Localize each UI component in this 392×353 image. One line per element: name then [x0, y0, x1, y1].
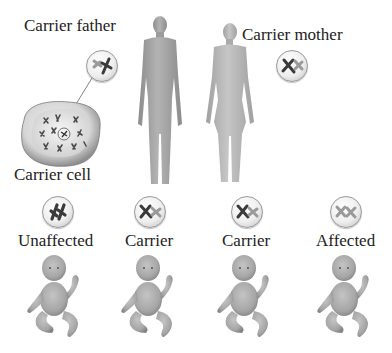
carrier-label-1: Carrier	[125, 232, 173, 249]
baby-carrier-figure-1	[118, 253, 182, 339]
affected-label: Affected	[316, 232, 375, 249]
carrier-cell-label: Carrier cell	[14, 166, 91, 183]
baby-unaffected-figure	[24, 253, 88, 339]
baby-carrier-figure-2	[214, 253, 278, 339]
unaffected-chromosome-icon	[42, 196, 74, 228]
unaffected-label: Unaffected	[18, 232, 93, 249]
affected-chromosome-icon	[330, 196, 362, 228]
baby-affected-figure	[314, 253, 378, 339]
carrier-chromosome-icon-1	[134, 196, 166, 228]
carrier-chromosome-icon-2	[231, 196, 263, 228]
mother-chromosome-icon	[276, 50, 308, 82]
father-figure	[134, 14, 186, 187]
mother-figure	[200, 22, 262, 186]
carrier-cell-illustration	[18, 98, 104, 170]
carrier-label-2: Carrier	[222, 232, 270, 249]
